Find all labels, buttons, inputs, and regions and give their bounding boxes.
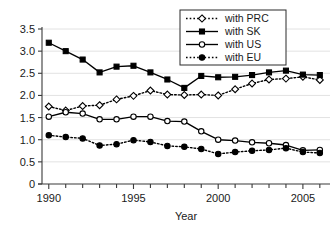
data-point-open-diamond <box>113 96 120 103</box>
y-tick-label: 0 <box>29 178 35 190</box>
data-point-open-circle <box>165 118 170 123</box>
x-tick-label: 1995 <box>121 192 145 204</box>
data-point-filled-square <box>148 70 153 75</box>
data-point-filled-square <box>200 29 205 34</box>
data-point-filled-square <box>182 85 187 90</box>
data-point-filled-square <box>165 77 170 82</box>
data-point-filled-circle <box>300 149 305 154</box>
data-point-open-circle <box>266 141 271 146</box>
data-point-filled-circle <box>283 145 288 150</box>
data-point-filled-square <box>63 49 68 54</box>
data-point-filled-square <box>216 75 221 80</box>
data-point-filled-square <box>46 40 51 45</box>
data-point-open-diamond <box>79 103 86 110</box>
data-point-filled-square <box>300 72 305 77</box>
data-point-open-circle <box>131 114 136 119</box>
y-tick-label: 1.0 <box>20 134 35 146</box>
data-point-filled-circle <box>199 55 204 60</box>
data-point-open-diamond <box>96 102 103 109</box>
data-point-filled-circle <box>249 148 254 153</box>
legend-label: with EU <box>224 51 261 63</box>
data-point-filled-circle <box>266 147 271 152</box>
x-axis-ticks <box>49 184 320 189</box>
data-point-filled-square <box>317 73 322 78</box>
y-tick-label: 3.5 <box>20 23 35 35</box>
data-point-open-diamond <box>181 92 188 99</box>
x-axis-title: Year <box>175 210 198 222</box>
data-point-open-circle <box>63 110 68 115</box>
y-axis-ticks <box>38 29 42 184</box>
y-tick-label: 0.5 <box>20 156 35 168</box>
line-chart-plot: 00.51.01.52.02.53.03.5 1990199520002005 … <box>0 0 336 227</box>
data-point-open-diamond <box>147 87 154 94</box>
data-point-filled-circle <box>114 141 119 146</box>
legend-label: with SK <box>224 25 261 37</box>
data-point-open-diamond <box>130 92 137 99</box>
y-tick-label: 1.5 <box>20 112 35 124</box>
data-point-open-circle <box>232 138 237 143</box>
data-point-open-diamond <box>45 103 52 110</box>
data-point-open-circle <box>46 114 51 119</box>
data-point-open-circle <box>97 117 102 122</box>
data-point-filled-square <box>131 63 136 68</box>
data-point-open-diamond <box>215 92 222 99</box>
data-point-filled-square <box>233 74 238 79</box>
data-point-filled-circle <box>80 136 85 141</box>
legend-label: with PRC <box>224 12 269 24</box>
x-axis-tick-labels: 1990199520002005 <box>37 192 316 204</box>
data-point-open-diamond <box>164 91 171 98</box>
data-point-filled-circle <box>63 134 68 139</box>
data-point-open-circle <box>114 117 119 122</box>
y-axis-tick-labels: 00.51.01.52.02.53.03.5 <box>20 23 35 190</box>
y-tick-label: 3.0 <box>20 45 35 57</box>
data-point-filled-circle <box>317 150 322 155</box>
data-point-filled-square <box>267 70 272 75</box>
data-point-filled-square <box>80 57 85 62</box>
data-point-open-diamond <box>266 76 273 83</box>
data-point-open-diamond <box>283 75 290 82</box>
data-point-filled-circle <box>46 133 51 138</box>
data-point-open-circle <box>80 111 85 116</box>
data-point-open-circle <box>199 42 204 47</box>
legend: with PRCwith SKwith USwith EU <box>180 10 286 65</box>
data-point-filled-circle <box>215 151 220 156</box>
x-tick-label: 2000 <box>206 192 230 204</box>
data-point-filled-circle <box>97 143 102 148</box>
data-point-filled-square <box>97 70 102 75</box>
data-point-open-circle <box>215 137 220 142</box>
data-point-filled-square <box>199 73 204 78</box>
data-point-filled-square <box>114 64 119 69</box>
data-point-filled-circle <box>148 139 153 144</box>
data-point-open-circle <box>249 140 254 145</box>
data-point-open-circle <box>199 129 204 134</box>
legend-label: with US <box>224 38 261 50</box>
data-point-filled-circle <box>131 137 136 142</box>
chart-figure: 00.51.01.52.02.53.03.5 1990199520002005 … <box>0 0 336 227</box>
data-point-open-diamond <box>198 91 205 98</box>
data-point-filled-circle <box>199 146 204 151</box>
x-tick-label: 2005 <box>291 192 315 204</box>
data-point-open-diamond <box>249 80 256 87</box>
x-tick-label: 1990 <box>37 192 61 204</box>
data-point-filled-square <box>250 73 255 78</box>
data-point-filled-square <box>283 68 288 73</box>
series-with-prc <box>45 73 323 114</box>
data-point-filled-circle <box>182 144 187 149</box>
y-tick-label: 2.0 <box>20 89 35 101</box>
y-tick-label: 2.5 <box>20 67 35 79</box>
data-point-open-diamond <box>232 86 239 93</box>
data-point-filled-circle <box>165 143 170 148</box>
data-point-open-circle <box>182 119 187 124</box>
data-point-filled-circle <box>232 149 237 154</box>
data-point-open-circle <box>148 114 153 119</box>
